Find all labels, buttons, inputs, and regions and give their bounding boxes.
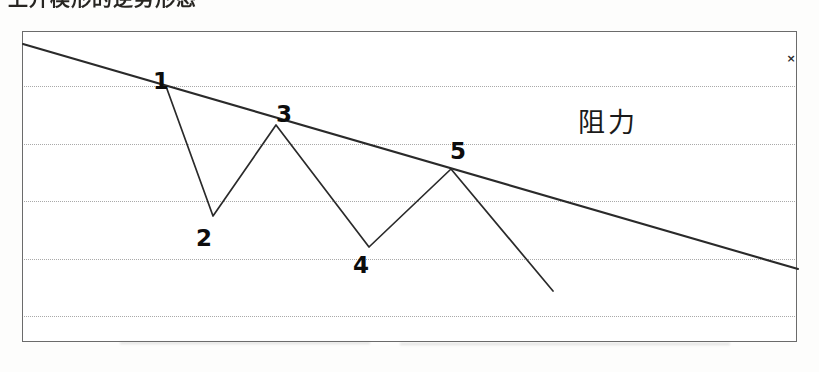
diagram-page: 上升楔形的逆势形态 1 2 3 4 5 阻力 × bbox=[0, 0, 819, 372]
caption-strip: 上升楔形的逆势形态 bbox=[0, 0, 819, 16]
resistance-trendline bbox=[23, 44, 798, 269]
plot-area bbox=[23, 32, 798, 343]
scan-smudge bbox=[120, 342, 370, 345]
wave-label-2: 2 bbox=[196, 227, 212, 250]
wave-label-5: 5 bbox=[450, 140, 466, 163]
wave-label-3: 3 bbox=[276, 103, 292, 126]
caption-text: 上升楔形的逆势形态 bbox=[8, 0, 197, 12]
wave-label-1: 1 bbox=[153, 70, 169, 93]
wave-label-4: 4 bbox=[353, 254, 369, 277]
resistance-annotation-label: 阻力 bbox=[578, 101, 638, 140]
close-icon[interactable]: × bbox=[786, 52, 795, 65]
scan-smudge bbox=[400, 343, 730, 346]
chart-frame: 1 2 3 4 5 阻力 × bbox=[22, 31, 797, 342]
